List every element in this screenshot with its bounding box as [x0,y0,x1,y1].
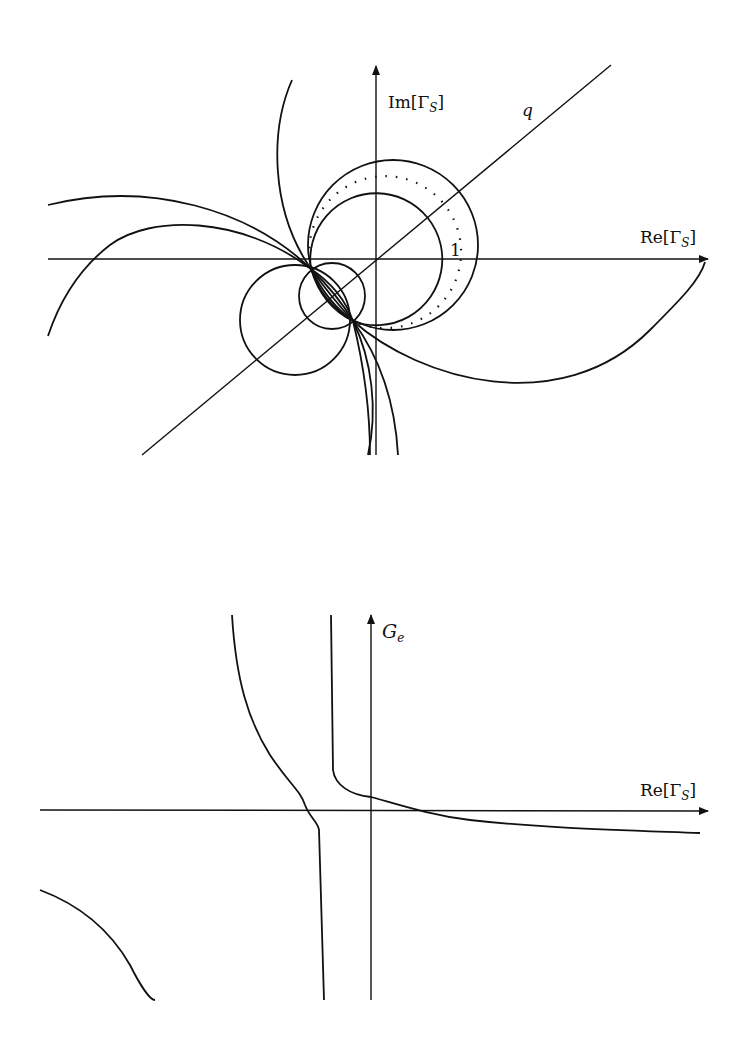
ge-re-axis [40,810,708,811]
ge-curve-branch-2 [331,615,700,833]
ge-curve-branch-3 [40,890,155,1000]
ge-curve-branch-1 [232,615,324,1000]
ge-axis-label: Ge [382,620,404,642]
bottom-re-axis-label: Re[ΓS] [640,780,696,800]
bottom-figure [0,0,744,1051]
